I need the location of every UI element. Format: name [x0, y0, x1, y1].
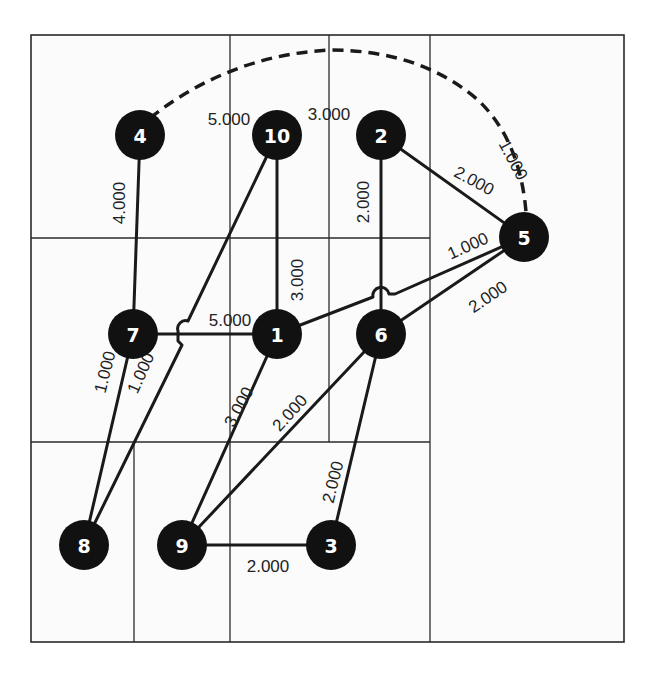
node-4: 4 [115, 110, 165, 160]
edge-weight-label: 2.000 [354, 181, 373, 224]
node-label: 5 [517, 227, 530, 249]
node-label: 1 [270, 324, 283, 346]
node-10: 10 [252, 110, 302, 160]
node-label: 7 [126, 324, 139, 346]
edge-weight-label: 3.000 [288, 259, 307, 302]
node-label: 3 [324, 535, 337, 557]
node-label: 8 [77, 535, 90, 557]
node-label: 9 [175, 535, 188, 557]
node-8: 8 [59, 520, 109, 570]
graph-diagram: 5.0003.0001.0002.0004.0002.0003.0001.000… [0, 0, 657, 677]
node-label: 10 [264, 125, 290, 147]
node-5: 5 [499, 212, 549, 262]
edge-weight-label: 5.000 [209, 311, 252, 330]
edge-weight-label: 5.000 [208, 110, 251, 129]
node-2: 2 [356, 110, 406, 160]
node-3: 3 [306, 520, 356, 570]
node-label: 6 [374, 324, 387, 346]
edge-weight-label: 4.000 [110, 182, 129, 225]
node-9: 9 [157, 520, 207, 570]
node-7: 7 [108, 309, 158, 359]
edge-weight-label: 3.000 [308, 105, 351, 124]
node-label: 2 [374, 125, 387, 147]
node-label: 4 [133, 125, 146, 147]
node-1: 1 [252, 309, 302, 359]
node-6: 6 [356, 309, 406, 359]
edge-weight-label: 2.000 [247, 557, 290, 576]
